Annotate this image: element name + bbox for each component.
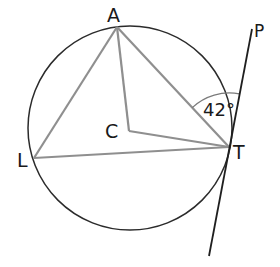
diagram-svg: A P C L T 42° — [0, 0, 280, 267]
label-l: L — [17, 149, 28, 171]
geometry-diagram: A P C L T 42° — [0, 0, 280, 267]
label-p: P — [254, 21, 264, 41]
segment-at — [117, 27, 229, 147]
angle-label: 42° — [203, 99, 235, 120]
label-c: C — [105, 120, 118, 142]
circle — [28, 26, 232, 230]
label-t: T — [232, 141, 245, 163]
tangent-line — [209, 29, 252, 256]
segment-lt — [34, 147, 229, 158]
segment-ct — [129, 131, 229, 147]
label-a: A — [107, 4, 120, 26]
segment-ac — [117, 27, 129, 131]
